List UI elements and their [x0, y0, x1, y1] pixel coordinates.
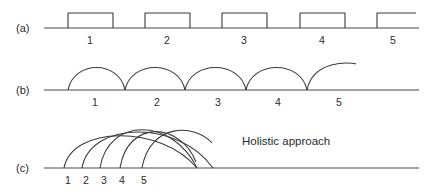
row-a-tick-1: 1: [87, 34, 93, 46]
row-a-tick-3: 3: [241, 34, 247, 46]
row-c-arc-1: [64, 136, 197, 168]
row-a-pulse-2: [145, 13, 190, 28]
row-c-tick-3: 3: [101, 174, 107, 186]
row-b-tick-1: 1: [92, 96, 98, 108]
row-b-tick-5: 5: [336, 96, 342, 108]
row-b-tick-2: 2: [154, 96, 160, 108]
row-a-pulse-4: [300, 13, 345, 28]
row-b-arc-1: [68, 68, 125, 91]
row-c-arc-5: [142, 130, 212, 168]
row-a-tick-4: 4: [319, 34, 325, 46]
row-c: (c) 1 2 3 4 5 Holistic approach: [16, 130, 419, 186]
row-b: (b) 1 2 3 4 5: [16, 63, 419, 108]
row-b-label: (b): [16, 84, 29, 96]
row-b-arc-2: [125, 68, 185, 91]
row-b-arc-4: [246, 68, 307, 91]
row-c-tick-1: 1: [65, 174, 71, 186]
holistic-approach-annotation: Holistic approach: [242, 135, 330, 147]
row-a-pulse-1: [68, 13, 113, 28]
waveform-figure: (a) 1 2 3 4 5 (b) 1 2 3 4 5 (c): [0, 0, 431, 192]
row-c-label: (c): [16, 162, 29, 174]
row-b-arc-5: [307, 63, 356, 90]
row-a-label: (a): [16, 22, 29, 34]
row-c-tick-5: 5: [141, 174, 147, 186]
row-c-tick-4: 4: [119, 174, 125, 186]
row-a-tick-2: 2: [164, 34, 170, 46]
row-a-tick-5: 5: [390, 34, 396, 46]
row-b-arc-3: [185, 68, 246, 91]
row-b-tick-4: 4: [275, 96, 281, 108]
row-b-tick-3: 3: [215, 96, 221, 108]
row-c-tick-2: 2: [83, 174, 89, 186]
row-a: (a) 1 2 3 4 5: [16, 13, 419, 46]
row-a-pulse-3: [222, 13, 267, 28]
row-a-pulse-5: [377, 13, 416, 28]
